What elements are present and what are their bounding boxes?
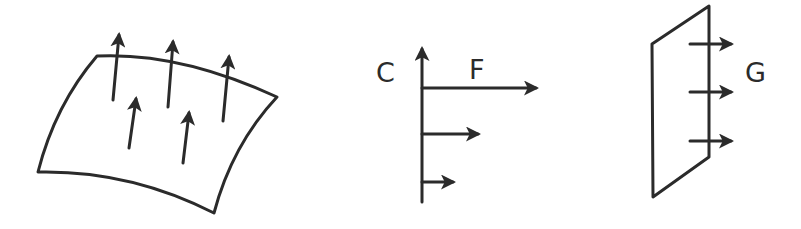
plane-panel	[652, 6, 731, 197]
surface-vector-arrows	[113, 35, 229, 163]
parallelogram-plane	[652, 6, 709, 197]
label-f: F	[469, 56, 485, 83]
surface-arrow-2	[168, 42, 173, 107]
curved-surface-outline	[38, 56, 277, 213]
surface-panel	[38, 35, 277, 213]
surface-arrow-4	[129, 99, 136, 148]
surface-arrow-3	[223, 57, 229, 121]
diagram-canvas	[0, 0, 801, 229]
label-g: G	[745, 59, 766, 86]
surface-arrow-5	[183, 113, 189, 163]
surface-arrow-1	[113, 35, 119, 100]
label-c: C	[376, 59, 395, 86]
